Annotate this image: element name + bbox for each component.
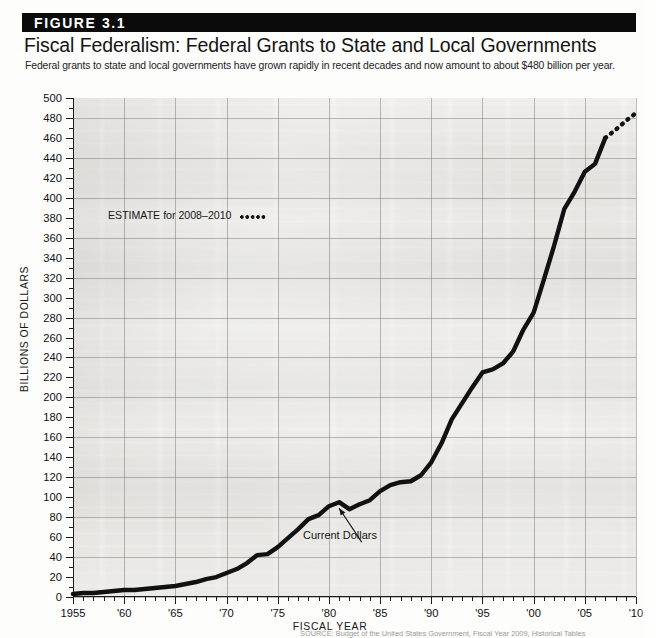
y-axis-tick xyxy=(66,258,73,259)
x-axis-minor-tick xyxy=(83,597,84,601)
estimate-legend-label: ESTIMATE for 2008–2010 xyxy=(108,209,231,221)
y-axis-tick xyxy=(66,557,73,558)
y-axis-tick-label: 280 xyxy=(43,312,62,324)
x-axis-minor-tick xyxy=(401,597,402,601)
x-axis-minor-tick xyxy=(360,597,361,601)
gridline-vertical xyxy=(636,98,637,597)
y-axis-tick xyxy=(66,417,73,418)
y-axis-tick xyxy=(66,278,73,279)
x-axis-tick xyxy=(124,597,125,604)
series-current-dollars-line xyxy=(73,138,605,594)
y-axis-tick-label: 300 xyxy=(43,292,62,304)
x-axis-minor-tick xyxy=(349,597,350,601)
x-axis-minor-tick xyxy=(564,597,565,601)
y-axis-tick xyxy=(66,198,73,199)
x-axis-minor-tick xyxy=(462,597,463,601)
y-axis-tick xyxy=(66,597,73,598)
y-axis-tick-label: 400 xyxy=(43,192,62,204)
x-axis-tick xyxy=(534,597,535,604)
x-axis-minor-tick xyxy=(196,597,197,601)
x-axis-tick xyxy=(227,597,228,604)
x-axis-tick xyxy=(636,597,637,604)
x-axis-minor-tick xyxy=(288,597,289,601)
x-axis-minor-tick xyxy=(472,597,473,601)
current-dollars-arrowhead xyxy=(339,508,345,515)
y-axis-tick-label: 340 xyxy=(43,252,62,264)
y-axis-title: BILLIONS OF DOLLARS xyxy=(19,266,30,392)
y-axis-tick-label: 380 xyxy=(43,212,62,224)
x-axis-minor-tick xyxy=(411,597,412,601)
x-axis-tick xyxy=(175,597,176,604)
y-axis-tick xyxy=(66,377,73,378)
x-axis-minor-tick xyxy=(513,597,514,601)
y-axis-tick-label: 160 xyxy=(43,431,62,443)
gridline-horizontal xyxy=(73,597,636,598)
chart-series-layer xyxy=(73,98,636,597)
y-axis-tick-label: 140 xyxy=(43,451,62,463)
x-axis-minor-tick xyxy=(308,597,309,601)
y-axis-tick-label: 360 xyxy=(43,232,62,244)
x-axis-minor-tick xyxy=(298,597,299,601)
y-axis-tick-label: 0 xyxy=(56,591,62,603)
y-axis-tick-label: 260 xyxy=(43,332,62,344)
y-axis-tick xyxy=(66,577,73,578)
y-axis-tick-label: 420 xyxy=(43,172,62,184)
x-axis-minor-tick xyxy=(93,597,94,601)
y-axis-tick-label: 480 xyxy=(43,112,62,124)
x-axis-tick-label: '90 xyxy=(424,607,439,619)
y-axis-tick-label: 500 xyxy=(43,92,62,104)
x-axis-minor-tick xyxy=(605,597,606,601)
page-edge-fade xyxy=(638,0,660,638)
x-axis-minor-tick xyxy=(616,597,617,601)
x-axis-tick-label: '60 xyxy=(117,607,132,619)
x-axis-tick-label: '75 xyxy=(270,607,285,619)
x-axis-tick-label: '00 xyxy=(526,607,541,619)
figure-banner: FIGURE 3.1 xyxy=(22,13,636,32)
y-axis-tick-label: 60 xyxy=(50,531,62,543)
x-axis-minor-tick xyxy=(206,597,207,601)
x-axis-tick xyxy=(431,597,432,604)
y-axis-tick xyxy=(66,357,73,358)
y-axis-tick xyxy=(66,477,73,478)
y-axis-tick xyxy=(66,158,73,159)
x-axis-minor-tick xyxy=(421,597,422,601)
estimate-legend-dotted-swatch xyxy=(240,215,267,219)
x-axis-minor-tick xyxy=(442,597,443,601)
x-axis-tick xyxy=(278,597,279,604)
x-axis-minor-tick xyxy=(452,597,453,601)
y-axis-tick xyxy=(66,338,73,339)
x-axis-minor-tick xyxy=(165,597,166,601)
y-axis-tick-label: 220 xyxy=(43,371,62,383)
x-axis-tick-label: '65 xyxy=(168,607,183,619)
y-axis-tick xyxy=(66,318,73,319)
x-axis-minor-tick xyxy=(595,597,596,601)
y-axis-tick xyxy=(66,218,73,219)
x-axis-tick-label: '70 xyxy=(219,607,234,619)
x-axis-minor-tick xyxy=(257,597,258,601)
y-axis-tick xyxy=(66,437,73,438)
source-note-strip: SOURCE: Budget of the United States Gove… xyxy=(0,628,660,638)
figure-page: FIGURE 3.1 Fiscal Federalism: Federal Gr… xyxy=(0,0,660,638)
x-axis-minor-tick xyxy=(493,597,494,601)
x-axis-minor-tick xyxy=(544,597,545,601)
series-estimate-line xyxy=(605,113,636,138)
y-axis-tick-label: 180 xyxy=(43,411,62,423)
x-axis-minor-tick xyxy=(390,597,391,601)
x-axis-minor-tick xyxy=(104,597,105,601)
x-axis-minor-tick xyxy=(339,597,340,601)
x-axis-tick-label: '05 xyxy=(578,607,593,619)
x-axis-minor-tick xyxy=(216,597,217,601)
y-axis-tick-label: 40 xyxy=(50,551,62,563)
y-axis-tick-label: 20 xyxy=(50,571,62,583)
x-axis-minor-tick xyxy=(237,597,238,601)
x-axis-minor-tick xyxy=(155,597,156,601)
y-axis-tick xyxy=(66,457,73,458)
y-axis-tick-label: 120 xyxy=(43,471,62,483)
x-axis-tick xyxy=(329,597,330,604)
y-axis-tick xyxy=(66,298,73,299)
x-axis-tick xyxy=(585,597,586,604)
x-axis-tick xyxy=(73,597,74,604)
x-axis-minor-tick xyxy=(145,597,146,601)
y-axis-tick-label: 440 xyxy=(43,152,62,164)
y-axis-tick-label: 320 xyxy=(43,272,62,284)
